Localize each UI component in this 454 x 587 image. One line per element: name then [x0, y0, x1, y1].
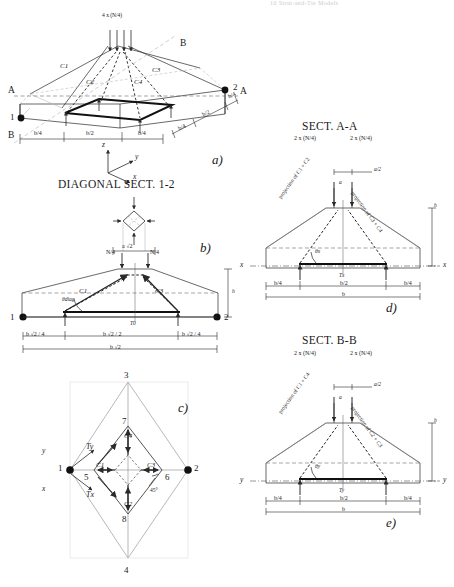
- panel-a-dim-b2: b/2: [86, 130, 94, 136]
- panel-a-section-mark-a-left: A: [8, 85, 15, 95]
- panel-a-axis-z: z: [102, 140, 105, 149]
- panel-c-axis-y: y: [42, 446, 45, 455]
- panel-a-node-1: 1: [10, 112, 15, 122]
- panel-e-dim-total: b: [342, 506, 345, 512]
- panel-d-tie: Tx: [339, 272, 345, 278]
- panel-c-letter: c): [178, 400, 188, 416]
- panel-c-node-5: 5: [84, 472, 89, 482]
- panel-a-section-mark-b-top: B: [180, 38, 186, 48]
- panel-c-angle-45: 45°: [150, 487, 158, 493]
- panel-d-drawing: [244, 140, 454, 300]
- panel-d-axis-left: x: [240, 260, 243, 269]
- panel-b-height: h: [232, 288, 235, 294]
- panel-b-strut-c1: C1: [79, 287, 87, 295]
- panel-b-node-2: 2: [224, 312, 229, 322]
- panel-b-dim-right: b √2 / 4: [182, 331, 200, 337]
- panel-c-tie-tx: Tx: [86, 490, 94, 499]
- panel-c-strut-c4: C4: [124, 432, 132, 440]
- panel-a-dim-b4-right: b/4: [138, 130, 146, 136]
- panel-d-letter: d): [386, 300, 397, 316]
- panel-b-strut-c3: C3: [155, 287, 163, 295]
- panel-e-dim-right: b/4: [404, 495, 412, 501]
- panel-b-title: DIAGONAL SECT. 1-2: [58, 178, 175, 190]
- panel-a-load-label: 4 x (N/4): [102, 12, 122, 18]
- panel-c-node-4: 4: [124, 565, 129, 575]
- panel-a-axis-y: y: [135, 152, 138, 161]
- panel-c-node-2: 2: [194, 463, 199, 473]
- panel-a-strut-c1: C1: [60, 62, 68, 70]
- figure-canvas: 10 Strut-and-Tie Models: [0, 0, 454, 587]
- panel-d-title: SECT. A-A: [302, 120, 358, 132]
- panel-b-dim-left: b √2 / 4: [26, 331, 44, 337]
- panel-e-letter: e): [386, 515, 396, 531]
- panel-a-dim-b4-left: b/4: [34, 130, 42, 136]
- panel-a-section-mark-b-bottom: B: [8, 130, 14, 140]
- panel-e-load-left: 2 x (N/4): [294, 350, 316, 356]
- panel-c-drawing: [12, 358, 252, 587]
- panel-c-tie-ty: Ty: [86, 442, 93, 451]
- panel-d-height: h: [434, 202, 437, 208]
- panel-c-strut-c3: C3: [147, 461, 155, 469]
- panel-e-tie: Ty: [339, 487, 344, 493]
- panel-b-node-1: 1: [10, 312, 15, 322]
- panel-b-angle: θdiag: [62, 296, 74, 302]
- panel-a-strut-c2: C2: [86, 78, 94, 86]
- panel-e-axis-right: y: [443, 475, 446, 484]
- panel-e-col-dim: a: [339, 394, 342, 400]
- panel-b-load-left: N/4: [106, 249, 115, 255]
- panel-b-dim-total: b √2: [110, 344, 121, 350]
- panel-e-height: h: [434, 417, 437, 423]
- panel-c-node-6: 6: [165, 472, 170, 482]
- panel-e-dim-left: b/4: [274, 495, 282, 501]
- panel-e-dim-mid: b/2: [340, 495, 348, 501]
- panel-a-letter: a): [212, 152, 223, 168]
- panel-e-load-right: 2 x (N/4): [350, 350, 372, 356]
- panel-d-dim-left: b/4: [274, 280, 282, 286]
- panel-e-angle: θy: [315, 463, 320, 469]
- panel-b-inset-dim: a √2: [122, 243, 132, 249]
- panel-d-angle: θx: [315, 248, 320, 254]
- panel-c-node-1: 1: [58, 463, 63, 473]
- panel-b-tie: T0: [130, 320, 136, 326]
- panel-e-drawing: [244, 355, 454, 515]
- panel-b-load-right: N/4: [150, 249, 159, 255]
- panel-d-axis-right: x: [443, 260, 446, 269]
- panel-b-dim-mid: b √2 / 2: [103, 331, 121, 337]
- panel-e-title: SECT. B-B: [302, 334, 357, 346]
- panel-d-dim-mid: b/2: [340, 280, 348, 286]
- panel-d-dim-total: b: [342, 291, 345, 297]
- panel-c-strut-c2: C2: [124, 500, 132, 508]
- panel-d-dim-right: b/4: [404, 280, 412, 286]
- panel-a-section-mark-a-right: A: [240, 86, 247, 96]
- panel-e-axis-left: y: [240, 475, 243, 484]
- panel-c-node-7: 7: [122, 416, 127, 426]
- panel-c-axis-x: x: [42, 484, 45, 493]
- panel-c-node-3: 3: [124, 370, 129, 380]
- panel-c-node-8: 8: [122, 514, 127, 524]
- panel-c-strut-c1: C1: [96, 461, 104, 469]
- panel-d-col-dim: a: [339, 179, 342, 185]
- panel-a-strut-c3: C3: [152, 66, 160, 74]
- page-header-note: 10 Strut-and-Tie Models: [270, 0, 338, 6]
- panel-d-top-dim: a/2: [374, 166, 381, 172]
- panel-d-load-right: 2 x (N/4): [350, 135, 372, 141]
- panel-d-load-left: 2 x (N/4): [294, 135, 316, 141]
- panel-a-strut-c4: C4: [134, 78, 142, 86]
- panel-e-top-dim: a/2: [374, 381, 381, 387]
- panel-b-letter: b): [200, 240, 211, 256]
